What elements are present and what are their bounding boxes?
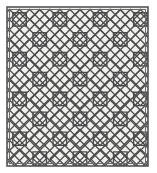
pattern-panel bbox=[0, 0, 157, 173]
figure-root bbox=[0, 0, 157, 173]
